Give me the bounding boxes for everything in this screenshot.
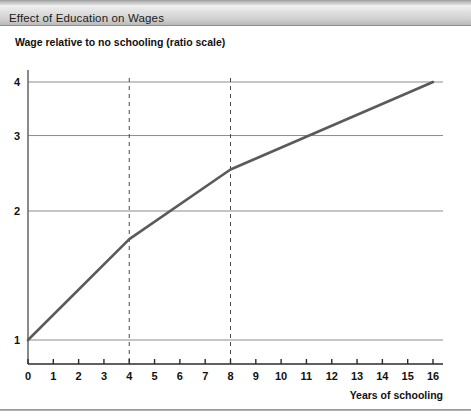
x-tick-label-6: 6 (177, 370, 183, 382)
y-tick-label-1: 1 (14, 334, 20, 346)
axes-group (28, 70, 443, 364)
bottom-rule (0, 409, 471, 411)
x-tick-label-15: 15 (402, 370, 414, 382)
x-tick-label-12: 12 (326, 370, 338, 382)
x-tick-label-9: 9 (253, 370, 259, 382)
x-tick-label-group: 012345678910111213141516 (25, 370, 439, 382)
x-tick-label-14: 14 (376, 370, 389, 382)
figure-panel: Effect of Education on Wages Wage relati… (0, 0, 471, 418)
y-tick-label-group: 1234 (14, 76, 21, 346)
x-tick-label-11: 11 (301, 370, 313, 382)
x-axis-title: Years of schooling (350, 389, 443, 401)
x-tick-label-5: 5 (152, 370, 158, 382)
x-tick-label-8: 8 (227, 370, 233, 382)
annotation-lines-group (129, 78, 230, 364)
x-tick-label-7: 7 (202, 370, 208, 382)
chart-plot-area: 012345678910111213141516 1234 Years of s… (0, 0, 471, 418)
x-tick-label-0: 0 (25, 370, 31, 382)
y-tick-label-3: 3 (14, 130, 20, 142)
x-tick-label-4: 4 (126, 370, 133, 382)
x-tick-label-16: 16 (427, 370, 439, 382)
x-tick-label-13: 13 (351, 370, 363, 382)
x-tick-label-1: 1 (50, 370, 56, 382)
x-tick-label-3: 3 (101, 370, 107, 382)
x-tick-label-10: 10 (275, 370, 287, 382)
x-tick-label-2: 2 (76, 370, 82, 382)
gridlines-group (28, 82, 443, 340)
y-tick-label-2: 2 (14, 205, 20, 217)
y-tick-label-4: 4 (14, 76, 21, 88)
